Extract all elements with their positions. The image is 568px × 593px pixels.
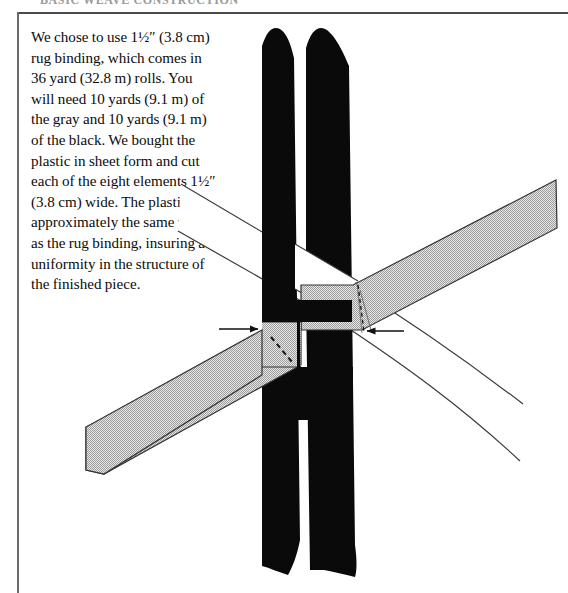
page-canvas: BASIC WEAVE CONSTRUCTION We chose to use… — [0, 0, 568, 593]
gray-strap-left-exit — [86, 330, 262, 474]
weave-construction-diagram — [0, 0, 568, 593]
